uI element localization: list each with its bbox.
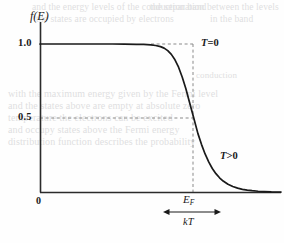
annotation-t-equals-zero-value: 0 <box>213 37 218 48</box>
annotation-t-greater-zero: T>0 <box>220 151 238 162</box>
y-tick-label-1: 1.0 <box>18 38 32 49</box>
y-axis-label: f(E) <box>30 10 49 22</box>
annotation-t-equals-zero: T=0 <box>201 38 219 49</box>
fermi-energy-subscript: F <box>190 198 195 207</box>
origin-label: 0 <box>36 196 41 206</box>
y-tick-label-0-5: 0.5 <box>18 112 32 123</box>
plot-canvas <box>0 0 284 243</box>
thermal-width-label: kT <box>183 217 194 228</box>
fermi-energy-symbol: E <box>183 193 190 205</box>
fermi-dirac-figure: and the energy levels of the conduction … <box>0 0 284 243</box>
fermi-energy-label: EF <box>183 194 194 207</box>
annotation-t-greater-zero-value: 0 <box>232 150 237 161</box>
kT-span-arrow <box>163 209 221 215</box>
